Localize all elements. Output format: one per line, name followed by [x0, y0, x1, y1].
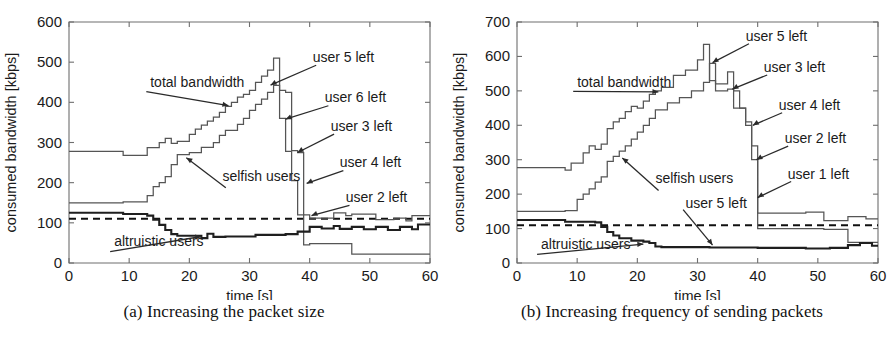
figure-container: 01002003004005006000102030405060time [s]…	[0, 0, 896, 352]
x-tick-label: 10	[569, 267, 586, 284]
x-tick-label: 50	[809, 267, 826, 284]
caption-b: (b) Increasing frequency of sending pack…	[448, 302, 896, 322]
annotation-label: total bandwidth	[150, 74, 244, 90]
annotation-label: user 4 left	[340, 154, 402, 170]
annotation-label: user 2 left	[785, 130, 847, 146]
annotation-leader	[683, 210, 712, 245]
annotation-label: altruistic users	[114, 233, 203, 249]
x-tick-label: 20	[181, 267, 198, 284]
x-tick-label: 30	[241, 267, 258, 284]
y-tick-label: 100	[485, 220, 510, 237]
x-tick-label: 10	[121, 267, 138, 284]
annotation-label: user 3 left	[764, 59, 826, 75]
panel-a: 01002003004005006000102030405060time [s]…	[0, 0, 448, 352]
y-tick-label: 500	[485, 82, 510, 99]
x-tick-label: 0	[513, 267, 521, 284]
x-tick-label: 20	[629, 267, 646, 284]
annotation-leader	[298, 134, 334, 152]
x-tick-label: 30	[689, 267, 706, 284]
x-tick-label: 40	[301, 267, 318, 284]
y-tick-label: 700	[485, 13, 510, 30]
panel-b: 01002003004005006007000102030405060time …	[448, 0, 896, 352]
y-tick-label: 0	[54, 254, 62, 271]
annotation-leader	[186, 158, 225, 188]
annotation-label: user 4 left	[779, 97, 841, 113]
y-tick-label: 600	[485, 47, 510, 64]
annotation-leader	[622, 158, 658, 191]
annotation-label: user 1 left	[788, 166, 850, 182]
y-tick-label: 300	[37, 134, 62, 151]
annotation-label: user 5 left	[746, 28, 808, 44]
chart-a: 01002003004005006000102030405060time [s]…	[0, 0, 448, 300]
y-axis-title: consumed bandwidth [kbps]	[451, 53, 467, 233]
y-tick-label: 500	[37, 53, 62, 70]
y-tick-label: 300	[485, 151, 510, 168]
annotation-label: user 6 left	[325, 89, 387, 105]
annotation-label: selfish users	[222, 168, 300, 184]
annotation-arrow	[311, 211, 318, 216]
x-tick-label: 0	[65, 267, 73, 284]
x-tick-label: 60	[422, 267, 439, 284]
annotation-label: user 5 left	[313, 49, 375, 65]
annotation-label: user 3 left	[331, 118, 393, 134]
annotation-label: selfish users	[655, 170, 733, 186]
y-tick-label: 200	[485, 185, 510, 202]
y-tick-label: 0	[502, 254, 510, 271]
y-tick-label: 400	[37, 93, 62, 110]
annotation-leader	[271, 65, 317, 85]
annotation-label: user 5 left	[685, 195, 747, 211]
x-tick-label: 40	[749, 267, 766, 284]
x-tick-label: 50	[361, 267, 378, 284]
x-tick-label: 60	[870, 267, 887, 284]
caption-a: (a) Increasing the packet size	[0, 302, 448, 322]
chart-b: 01002003004005006007000102030405060time …	[448, 0, 896, 300]
y-tick-label: 100	[37, 214, 62, 231]
annotation-leader	[146, 92, 228, 106]
x-axis-title: time [s]	[674, 288, 721, 300]
y-tick-label: 600	[37, 13, 62, 30]
y-axis-title: consumed bandwidth [kbps]	[3, 53, 19, 233]
x-axis-title: time [s]	[226, 288, 273, 300]
annotation-leader	[713, 44, 749, 63]
y-tick-label: 400	[485, 116, 510, 133]
y-tick-label: 200	[37, 174, 62, 191]
annotation-label: user 2 left	[346, 189, 408, 205]
annotation-label: total bandwidth	[577, 74, 671, 90]
